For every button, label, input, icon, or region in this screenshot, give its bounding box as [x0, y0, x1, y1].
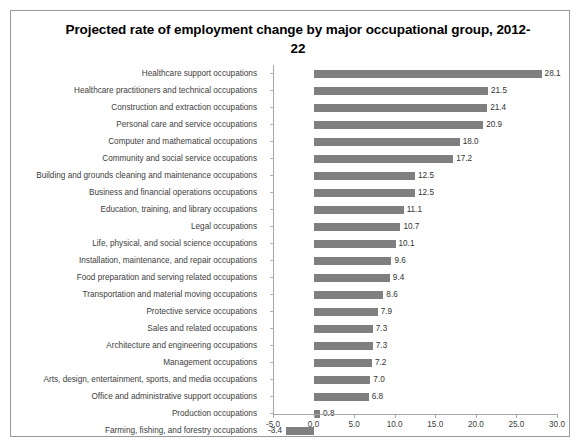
bar-value-label: 7.2: [375, 357, 386, 368]
bar: [314, 376, 371, 384]
bar-row: 7.3: [11, 337, 571, 354]
bar-value-label: 7.9: [381, 306, 392, 317]
bar: [314, 240, 396, 248]
y-axis-tick: [270, 345, 274, 346]
x-axis-tick: [557, 414, 558, 418]
bar: [314, 172, 415, 180]
plot-area: Healthcare support occupationsHealthcare…: [11, 11, 571, 438]
bar: [314, 308, 378, 316]
bar: [314, 155, 454, 163]
bar: [314, 342, 373, 350]
x-axis-tick-label: 10.0: [375, 420, 415, 429]
bar-row: 10.7: [11, 218, 571, 235]
bar-row: 28.1: [11, 65, 571, 82]
bar: [314, 291, 384, 299]
y-axis-tick: [270, 277, 274, 278]
x-axis-tick-label: 5.0: [334, 420, 374, 429]
x-axis-tick: [273, 414, 274, 418]
x-axis-line: [273, 414, 557, 415]
y-axis-tick: [270, 175, 274, 176]
bar: [314, 70, 542, 78]
bar-value-label: 8.6: [386, 289, 397, 300]
x-axis-tick-label: 25.0: [496, 420, 536, 429]
bar-row: 7.2: [11, 354, 571, 371]
bar-value-label: 10.7: [403, 221, 419, 232]
bar-value-label: 12.5: [418, 170, 434, 181]
y-axis-tick: [270, 192, 274, 193]
bar-row: 7.3: [11, 320, 571, 337]
bar: [314, 87, 488, 95]
bar-value-label: 20.9: [486, 119, 502, 130]
y-axis-tick: [270, 311, 274, 312]
x-axis-tick-label: -5.0: [253, 420, 293, 429]
bar-value-label: 21.4: [490, 102, 506, 113]
bar: [314, 189, 415, 197]
y-axis-tick: [270, 328, 274, 329]
bar-value-label: 10.1: [399, 238, 415, 249]
bar-series: 28.121.521.420.918.017.212.512.511.110.7…: [11, 65, 571, 405]
bar-value-label: 7.0: [373, 374, 384, 385]
bar-value-label: 9.6: [394, 255, 405, 266]
bar: [314, 223, 401, 231]
bar-row: 12.5: [11, 167, 571, 184]
y-axis-tick: [270, 362, 274, 363]
bar: [314, 121, 484, 129]
bar: [314, 274, 390, 282]
bar-value-label: 18.0: [463, 136, 479, 147]
bar: [314, 325, 373, 333]
x-axis-tick: [314, 414, 315, 418]
bar-value-label: 7.3: [376, 340, 387, 351]
bar-row: 21.4: [11, 99, 571, 116]
bar: [314, 138, 460, 146]
bar-row: 10.1: [11, 235, 571, 252]
bar-value-label: 11.1: [407, 204, 422, 215]
y-axis-tick: [270, 226, 274, 227]
y-axis-tick: [270, 430, 274, 431]
bar-row: 17.2: [11, 150, 571, 167]
bar-value-label: 17.2: [456, 153, 472, 164]
y-axis-tick: [270, 209, 274, 210]
y-axis-tick: [270, 141, 274, 142]
bar-row: 12.5: [11, 184, 571, 201]
x-axis-tick-label: 15.0: [415, 420, 455, 429]
bar-row: 18.0: [11, 133, 571, 150]
x-axis-tick: [395, 414, 396, 418]
bar: [314, 257, 392, 265]
x-axis-tick-label: 0.0: [294, 420, 334, 429]
y-axis-tick: [270, 260, 274, 261]
bar-row: 21.5: [11, 82, 571, 99]
y-axis-tick: [270, 124, 274, 125]
bar-row: 6.8: [11, 388, 571, 405]
bar-row: 9.6: [11, 252, 571, 269]
x-axis-tick: [354, 414, 355, 418]
x-axis-tick: [476, 414, 477, 418]
chart-frame: Projected rate of employment change by m…: [10, 10, 570, 437]
x-axis-tick-label: 30.0: [537, 420, 577, 429]
x-axis-tick: [516, 414, 517, 418]
y-axis-tick: [270, 396, 274, 397]
y-axis-tick: [270, 90, 274, 91]
y-axis-tick: [270, 294, 274, 295]
bar-value-label: 9.4: [393, 272, 404, 283]
bar-value-label: 12.5: [418, 187, 434, 198]
bar-row: 7.0: [11, 371, 571, 388]
bar-row: 8.6: [11, 286, 571, 303]
bar-value-label: 21.5: [491, 85, 507, 96]
bar-value-label: 28.1: [545, 68, 561, 79]
bar: [314, 393, 369, 401]
bar-row: 9.4: [11, 269, 571, 286]
bar-value-label: 7.3: [376, 323, 387, 334]
bar-row: 11.1: [11, 201, 571, 218]
y-axis-tick: [270, 107, 274, 108]
bar: [314, 206, 404, 214]
y-axis-tick: [270, 379, 274, 380]
y-axis-tick: [270, 243, 274, 244]
bar-value-label: 6.8: [372, 391, 383, 402]
bar-row: 20.9: [11, 116, 571, 133]
bar: [314, 104, 488, 112]
y-axis-tick: [270, 73, 274, 74]
y-axis-tick: [270, 158, 274, 159]
bar-row: 7.9: [11, 303, 571, 320]
bar: [314, 359, 372, 367]
x-axis-tick: [435, 414, 436, 418]
